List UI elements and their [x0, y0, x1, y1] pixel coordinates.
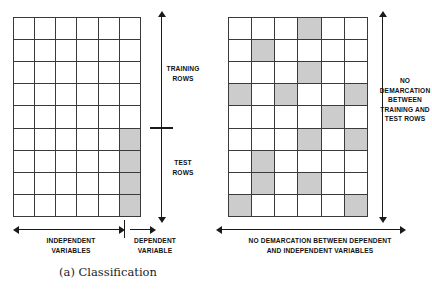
dependent-variable-label-line1: DEPENDENT: [123, 236, 187, 246]
classification-matrix-cell: [77, 84, 97, 105]
classification-matrix-cell: [14, 195, 34, 216]
matrix-completion-matrix-cell: [275, 173, 297, 194]
matrix-completion-matrix-cell: [298, 106, 320, 127]
matrix-completion-matrix-cell: [322, 151, 344, 172]
classification-matrix-cell: [99, 173, 119, 194]
matrix-completion-matrix-cell: [345, 62, 367, 83]
classification-matrix-cell: [99, 62, 119, 83]
test-rows-label: TEST ROWS: [155, 158, 211, 177]
matrix-completion-matrix-cell: [298, 40, 320, 61]
classification-matrix-cell: [35, 84, 55, 105]
classification-matrix-cell: [99, 40, 119, 61]
matrix-completion-matrix-cell: [345, 129, 367, 150]
classification-matrix-cell: [120, 195, 140, 216]
classification-matrix-cell: [120, 173, 140, 194]
classification-matrix-cell: [120, 62, 140, 83]
classification-matrix-cell: [14, 129, 34, 150]
matrix-completion-matrix-cell: [298, 84, 320, 105]
matrix-completion-matrix-cell: [345, 84, 367, 105]
classification-matrix-cell: [120, 129, 140, 150]
matrix-completion-matrix-cell: [229, 173, 251, 194]
test-rows-label-line2: ROWS: [155, 168, 211, 178]
no-demarcation-rows-label-line5: TEST ROWS: [378, 114, 432, 124]
classification-matrix-cell: [120, 151, 140, 172]
matrix-completion-matrix-cell: [322, 40, 344, 61]
matrix-completion-matrix-cell: [275, 40, 297, 61]
classification-matrix-cell: [77, 151, 97, 172]
matrix-completion-matrix-cell: [229, 129, 251, 150]
classification-matrix-cell: [56, 106, 76, 127]
matrix-completion-matrix-cell: [322, 18, 344, 39]
matrix-completion-matrix-cell: [229, 195, 251, 216]
classification-matrix-cell: [77, 173, 97, 194]
independent-variables-label: INDEPENDENT VARIABLES: [27, 236, 115, 255]
matrix-completion-matrix-cell: [322, 106, 344, 127]
matrix-completion-matrix-cell: [252, 173, 274, 194]
matrix-completion-matrix-cell: [298, 173, 320, 194]
no-demarcation-columns-label-line2: AND INDEPENDENT VARIABLES: [216, 246, 424, 256]
classification-data-matrix: [13, 17, 141, 217]
classification-matrix-cell: [14, 173, 34, 194]
independent-variables-label-line1: INDEPENDENT: [27, 236, 115, 246]
training-test-rows-axis-arrow: [161, 17, 162, 217]
no-demarcation-columns-label-line1: NO DEMARCATION BETWEEN DEPENDENT: [216, 236, 424, 246]
matrix-completion-matrix-cell: [345, 18, 367, 39]
matrix-completion-matrix-cell: [275, 151, 297, 172]
classification-matrix-cell: [56, 173, 76, 194]
matrix-completion-matrix-cell: [298, 151, 320, 172]
classification-matrix-cell: [35, 18, 55, 39]
training-test-divider-tick: [150, 127, 173, 129]
matrix-completion-matrix-cell: [229, 40, 251, 61]
panel-classification: TRAINING ROWS TEST ROWS INDEPENDENT VARI…: [0, 0, 216, 289]
no-demarcation-rows-label-line1: NO: [378, 76, 432, 86]
matrix-completion-matrix-cell: [298, 129, 320, 150]
matrix-completion-matrix-cell: [298, 195, 320, 216]
classification-matrix-cell: [77, 129, 97, 150]
training-rows-label: TRAINING ROWS: [155, 64, 211, 83]
no-demarcation-rows-label-line2: DEMARCATION: [378, 86, 432, 96]
matrix-completion-matrix-cell: [322, 62, 344, 83]
matrix-completion-matrix-cell: [275, 106, 297, 127]
classification-matrix-cell: [35, 151, 55, 172]
matrix-completion-matrix-cell: [275, 129, 297, 150]
classification-matrix-cell: [99, 151, 119, 172]
classification-matrix-cell: [35, 195, 55, 216]
classification-matrix-cell: [120, 106, 140, 127]
matrix-completion-matrix-cell: [275, 84, 297, 105]
dependent-variable-label: DEPENDENT VARIABLE: [123, 236, 187, 255]
matrix-completion-matrix-cell: [322, 195, 344, 216]
classification-matrix-cell: [35, 173, 55, 194]
matrix-completion-matrix-cell: [345, 40, 367, 61]
training-rows-label-line2: ROWS: [155, 74, 211, 84]
matrix-completion-matrix-cell: [229, 84, 251, 105]
classification-matrix-cell: [35, 62, 55, 83]
independent-variables-label-line2: VARIABLES: [27, 246, 115, 256]
classification-matrix-cell: [14, 84, 34, 105]
matrix-completion-matrix-cell: [322, 173, 344, 194]
matrix-completion-matrix-cell: [345, 173, 367, 194]
no-demarcation-columns-label: NO DEMARCATION BETWEEN DEPENDENT AND IND…: [216, 236, 424, 255]
classification-matrix-cell: [35, 40, 55, 61]
classification-matrix-cell: [120, 40, 140, 61]
matrix-completion-matrix-cell: [252, 106, 274, 127]
matrix-completion-matrix-cell: [275, 195, 297, 216]
matrix-completion-matrix-cell: [229, 62, 251, 83]
classification-matrix-cell: [56, 40, 76, 61]
matrix-completion-matrix-cell: [252, 195, 274, 216]
no-demarcation-columns-axis-arrow: [222, 229, 400, 230]
classification-matrix-cell: [99, 195, 119, 216]
classification-matrix-cell: [77, 40, 97, 61]
classification-matrix-cell: [77, 18, 97, 39]
matrix-completion-matrix-cell: [298, 62, 320, 83]
matrix-completion-matrix-cell: [345, 195, 367, 216]
matrix-completion-matrix-cell: [345, 151, 367, 172]
classification-matrix-cell: [14, 40, 34, 61]
classification-matrix-cell: [14, 62, 34, 83]
classification-matrix-cell: [14, 106, 34, 127]
classification-matrix-cell: [120, 84, 140, 105]
matrix-completion-matrix-cell: [252, 40, 274, 61]
matrix-completion-matrix-cell: [252, 84, 274, 105]
classification-matrix-cell: [99, 84, 119, 105]
classification-matrix-cell: [56, 151, 76, 172]
classification-matrix-cell: [77, 195, 97, 216]
